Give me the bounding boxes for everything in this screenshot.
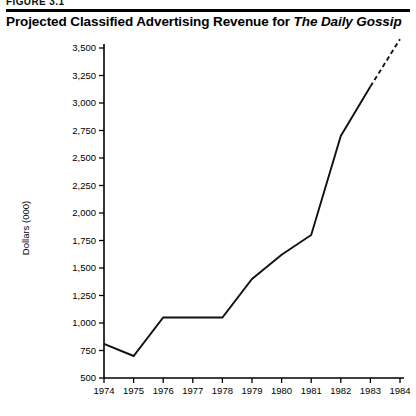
revenue-line-projected [370,39,400,86]
x-tick-label: 1975 [123,385,144,396]
x-tick-label: 1982 [330,385,351,396]
y-tick-label: 2,750 [72,125,96,136]
y-tick-label: 750 [80,345,96,356]
y-tick-label: 3,500 [72,42,96,53]
plot-area: Dollars (000) 5007501,0001,2501,5001,750… [0,32,416,416]
x-tick-label: 1980 [271,385,292,396]
x-tick-label: 1974 [93,385,114,396]
y-tick-label: 2,500 [72,152,96,163]
x-tick-label: 1984 [389,385,410,396]
revenue-line-actual [104,87,370,357]
y-tick-label: 1,500 [72,262,96,273]
x-tick-label: 1981 [301,385,322,396]
chart-title-lead: Projected Classified Advertising Revenue… [6,14,294,29]
figure-container: FIGURE 3.1 Projected Classified Advertis… [0,0,416,416]
x-tick-label: 1978 [212,385,233,396]
figure-number-label: FIGURE 3.1 [6,0,64,7]
y-axis-title: Dollars (000) [20,201,31,255]
y-tick-label: 500 [80,372,96,383]
x-axis-tick-labels: 1974197519761977197819791980198119821983… [93,385,410,396]
y-tick-label: 2,250 [72,180,96,191]
y-tick-label: 1,000 [72,317,96,328]
y-tick-label: 3,250 [72,70,96,81]
x-tick-label: 1977 [182,385,203,396]
chart-title: Projected Classified Advertising Revenue… [6,14,414,29]
y-tick-label: 1,250 [72,290,96,301]
line-chart-svg: Dollars (000) 5007501,0001,2501,5001,750… [0,32,416,416]
x-tick-label: 1976 [153,385,174,396]
y-tick-label: 1,750 [72,235,96,246]
x-tick-label: 1979 [241,385,262,396]
title-rule-bottom [6,11,410,12]
y-axis-tick-labels: 5007501,0001,2501,5001,7502,0002,2502,50… [72,42,96,383]
chart-title-publication: The Daily Gossip [294,14,402,29]
y-tick-label: 2,000 [72,207,96,218]
x-tick-label: 1983 [360,385,381,396]
y-tick-label: 3,000 [72,97,96,108]
